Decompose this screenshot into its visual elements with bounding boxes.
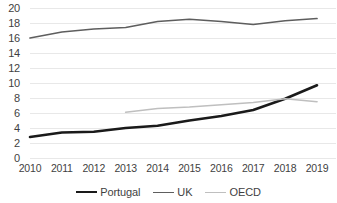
y-tick-label: 8 — [2, 93, 20, 104]
x-tick-label: 2010 — [19, 163, 42, 174]
series-lines — [30, 19, 317, 138]
y-tick-label: 18 — [2, 18, 20, 29]
legend-swatch-oecd-icon — [205, 192, 226, 193]
y-tick-label: 14 — [2, 48, 20, 59]
x-tick-label: 2018 — [274, 163, 297, 174]
legend-label: UK — [177, 186, 192, 198]
legend-label: OECD — [229, 186, 260, 198]
series-line-oecd — [126, 99, 317, 113]
x-tick-label: 2016 — [210, 163, 233, 174]
x-axis: 2010201120122013201420152016201720182019 — [0, 163, 337, 177]
x-tick-label: 2012 — [82, 163, 105, 174]
series-line-uk — [30, 19, 317, 39]
y-tick-label: 6 — [2, 108, 20, 119]
y-tick-label: 2 — [2, 138, 20, 149]
x-tick-label: 2017 — [242, 163, 265, 174]
x-tick-label: 2013 — [114, 163, 137, 174]
y-tick-label: 20 — [2, 3, 20, 14]
legend-item-portugal[interactable]: Portugal — [76, 186, 140, 198]
y-tick-label: 16 — [2, 33, 20, 44]
series-line-portugal — [30, 85, 317, 137]
x-tick-label: 2015 — [178, 163, 201, 174]
y-tick-label: 10 — [2, 78, 20, 89]
x-tick-label: 2011 — [51, 163, 73, 174]
y-tick-label: 4 — [2, 123, 20, 134]
x-tick-label: 2019 — [306, 163, 329, 174]
x-tick-label: 2014 — [146, 163, 169, 174]
chart-legend: PortugalUKOECD — [0, 184, 337, 200]
legend-swatch-portugal-icon — [76, 191, 97, 193]
y-tick-label: 0 — [2, 153, 20, 164]
y-tick-label: 12 — [2, 63, 20, 74]
legend-swatch-uk-icon — [153, 192, 174, 193]
legend-label: Portugal — [100, 186, 140, 198]
line-chart: 20181614121086420 2010201120122013201420… — [0, 0, 337, 203]
legend-item-oecd[interactable]: OECD — [205, 186, 260, 198]
legend-item-uk[interactable]: UK — [153, 186, 192, 198]
